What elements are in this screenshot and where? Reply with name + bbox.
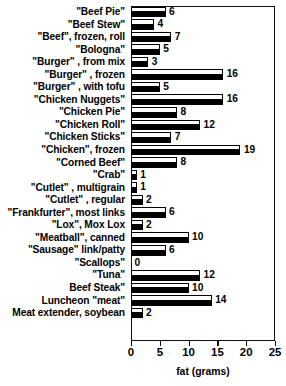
category-label: "Chicken Roll" — [0, 119, 128, 132]
bar-shadow — [131, 100, 223, 105]
x-axis-tick — [189, 341, 190, 346]
bar-shadow — [131, 12, 166, 17]
bar-row: 19 — [131, 144, 275, 157]
bar — [131, 32, 171, 43]
bar-value-label: 12 — [204, 269, 215, 282]
bar-row: 0 — [131, 257, 275, 270]
x-axis-tick — [275, 341, 276, 346]
bar-shadow — [131, 87, 160, 92]
bar-shadow — [131, 250, 166, 255]
bar-value-label: 1 — [140, 181, 146, 194]
category-label: "Crab" — [0, 169, 128, 182]
category-label: Luncheon "meat" — [0, 295, 128, 308]
bar-value-label: 7 — [175, 31, 181, 44]
category-label: "Chicken Sticks" — [0, 131, 128, 144]
bar-row: 16 — [131, 94, 275, 107]
bar-shadow — [131, 150, 240, 155]
bar — [131, 195, 143, 206]
x-axis-tick-labels: 0510152025 — [131, 346, 275, 360]
bar-shadow — [131, 288, 189, 293]
bar — [131, 207, 166, 218]
bar-shadow — [131, 162, 177, 167]
bar-row: 7 — [131, 131, 275, 144]
category-label: "Chicken Nuggets" — [0, 94, 128, 107]
bar-value-label: 5 — [163, 81, 169, 94]
bar-value-label: 19 — [244, 144, 255, 157]
bars-layer: 647531651681271981126210601210142 — [131, 6, 275, 341]
bar — [131, 220, 143, 231]
bar — [131, 69, 223, 80]
bar-value-label: 0 — [135, 257, 141, 270]
x-axis-tick-label: 5 — [157, 346, 163, 358]
category-label: "Lox", Mox Lox — [0, 219, 128, 232]
category-label: "Beef", frozen, roll — [0, 31, 128, 44]
bar-row: 1 — [131, 182, 275, 195]
bar-shadow — [131, 75, 223, 80]
bar-row: 5 — [131, 81, 275, 94]
bar-shadow — [131, 200, 143, 205]
bar-value-label: 5 — [163, 43, 169, 56]
bar-row: 6 — [131, 244, 275, 257]
bar-value-label: 1 — [140, 169, 146, 182]
fat-grams-bar-chart: "Beef Pie""Beef Stew""Beef", frozen, rol… — [0, 0, 286, 386]
bar — [131, 245, 166, 256]
bar-row: 12 — [131, 269, 275, 282]
category-label: "Burger" , with tofu — [0, 81, 128, 94]
bar-shadow — [131, 125, 200, 130]
category-label: Meat extender, soybean — [0, 307, 128, 320]
bar-value-label: 10 — [192, 231, 203, 244]
bar — [131, 157, 177, 168]
bar-value-label: 14 — [215, 294, 226, 307]
bar-value-label: 2 — [146, 194, 152, 207]
bar-value-label: 6 — [169, 6, 175, 19]
category-label: "Burger" , from mix — [0, 56, 128, 69]
bar — [131, 232, 189, 243]
bar — [131, 107, 177, 118]
x-axis-tick-label: 15 — [211, 346, 224, 358]
x-axis-tick — [246, 341, 247, 346]
x-axis-tick-label: 0 — [128, 346, 134, 358]
category-label: "Tuna" — [0, 269, 128, 282]
bar-value-label: 4 — [158, 18, 164, 31]
bar-row: 8 — [131, 157, 275, 170]
bar — [131, 308, 143, 319]
category-label: "Sausage" link/patty — [0, 244, 128, 257]
category-label: "Meatball", canned — [0, 232, 128, 245]
bar-value-label: 6 — [169, 206, 175, 219]
bar-value-label: 8 — [181, 106, 187, 119]
bar-value-label: 16 — [227, 93, 238, 106]
bar-shadow — [131, 313, 143, 318]
bar-shadow — [131, 137, 171, 142]
bar-value-label: 10 — [192, 282, 203, 295]
category-label: "Corned Beef" — [0, 157, 128, 170]
bar-row: 2 — [131, 307, 275, 320]
bar — [131, 182, 137, 193]
bar-row: 6 — [131, 6, 275, 19]
bar-shadow — [131, 213, 166, 218]
x-axis-tick — [217, 341, 218, 346]
category-label: Beef Steak" — [0, 282, 128, 295]
bar-shadow — [131, 175, 137, 180]
bar — [131, 57, 148, 68]
category-label: "Chicken", frozen — [0, 144, 128, 157]
bar-shadow — [131, 225, 143, 230]
bar — [131, 120, 200, 131]
x-axis-tick — [131, 341, 132, 346]
bar-row: 10 — [131, 232, 275, 245]
category-label: "Cutlet" , multigrain — [0, 182, 128, 195]
category-label: "Burger" , frozen — [0, 69, 128, 82]
bar-row: 5 — [131, 44, 275, 57]
bar-row: 2 — [131, 194, 275, 207]
category-axis-labels: "Beef Pie""Beef Stew""Beef", frozen, rol… — [0, 6, 128, 320]
bar-row: 10 — [131, 282, 275, 295]
bar — [131, 283, 189, 294]
bar — [131, 295, 212, 306]
x-axis-tick-label: 20 — [240, 346, 253, 358]
category-label: "Bologna" — [0, 44, 128, 57]
bar-value-label: 2 — [146, 307, 152, 320]
bar-value-label: 12 — [204, 119, 215, 132]
bar-row: 16 — [131, 69, 275, 82]
bar-row: 2 — [131, 219, 275, 232]
bar-shadow — [131, 238, 189, 243]
bar — [131, 44, 160, 55]
